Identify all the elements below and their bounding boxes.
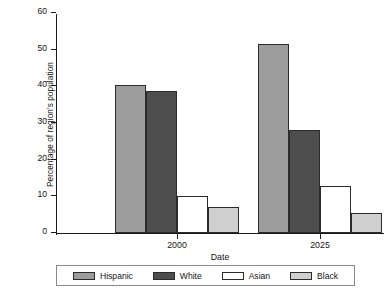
legend-label: Black [317, 271, 338, 281]
legend-item-asian[interactable]: Asian [222, 271, 271, 281]
bar-black-2025 [351, 213, 382, 233]
bar-hispanic-2000 [115, 85, 146, 234]
chart-legend: HispanicWhiteAsianBlack [56, 265, 355, 286]
bar-white-2025 [289, 130, 320, 233]
y-tick: 0 [51, 232, 56, 233]
x-axis-line [56, 233, 384, 234]
plot-area: 0102030405060 20002025 Date [56, 14, 384, 234]
legend-swatch-icon [222, 272, 244, 280]
y-tick: 30 [51, 122, 56, 123]
x-tick [177, 234, 178, 239]
bar-asian-2000 [177, 196, 208, 233]
y-tick: 40 [51, 85, 56, 86]
bar-black-2000 [208, 207, 239, 233]
x-tick [320, 234, 321, 239]
legend-item-white[interactable]: White [153, 271, 202, 281]
legend-label: White [180, 271, 202, 281]
bar-asian-2025 [320, 186, 351, 233]
legend-swatch-icon [73, 272, 95, 280]
legend-label: Hispanic [100, 271, 133, 281]
y-tick-label: 60 [37, 6, 47, 16]
y-tick-label: 30 [37, 116, 47, 126]
x-tick-label: 2025 [310, 240, 330, 250]
y-tick-label: 0 [42, 226, 47, 236]
x-tick-label: 2000 [167, 240, 187, 250]
legend-swatch-icon [290, 272, 312, 280]
y-tick-label: 10 [37, 189, 47, 199]
y-tick: 10 [51, 195, 56, 196]
legend-swatch-icon [153, 272, 175, 280]
legend-label: Asian [249, 271, 271, 281]
y-tick: 60 [51, 12, 56, 13]
x-axis-title: Date [56, 252, 384, 262]
y-tick: 50 [51, 49, 56, 50]
y-tick-label: 20 [37, 153, 47, 163]
legend-item-hispanic[interactable]: Hispanic [73, 271, 133, 281]
legend-item-black[interactable]: Black [290, 271, 338, 281]
y-tick-label: 50 [37, 43, 47, 53]
bar-white-2000 [146, 91, 177, 233]
bar-hispanic-2025 [258, 44, 289, 233]
bar-chart: Percentage of region's population 010203… [0, 0, 390, 299]
y-tick: 20 [51, 159, 56, 160]
y-tick-label: 40 [37, 79, 47, 89]
y-axis-line [56, 14, 57, 235]
